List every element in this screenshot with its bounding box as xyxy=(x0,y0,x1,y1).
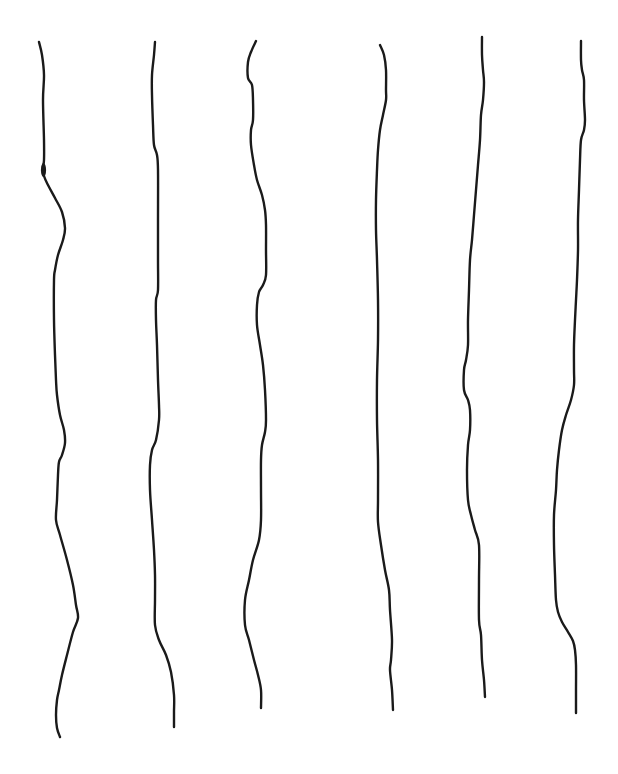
drawing-canvas xyxy=(0,0,618,774)
ink-blot-mark xyxy=(41,163,46,177)
canvas-background xyxy=(0,0,618,774)
